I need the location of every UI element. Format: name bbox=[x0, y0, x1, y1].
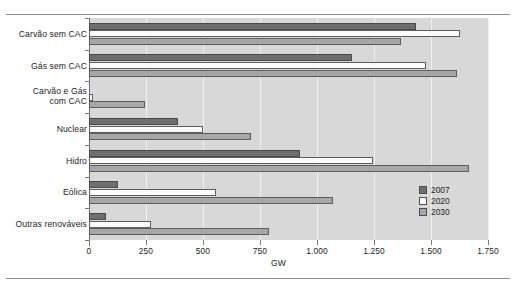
x-tick-label-1000: 1.000 bbox=[292, 246, 342, 256]
bar-0-2030 bbox=[89, 38, 401, 45]
y-tick-3 bbox=[85, 113, 90, 114]
bar-3-2020 bbox=[89, 126, 203, 133]
bar-1-2030 bbox=[89, 70, 457, 77]
gridline-1750 bbox=[488, 18, 489, 240]
legend-swatch-2030 bbox=[419, 208, 427, 216]
legend: 2007 2020 2030 bbox=[419, 185, 450, 218]
bar-5-2030 bbox=[89, 197, 333, 204]
x-tick-1500 bbox=[431, 240, 432, 245]
legend-swatch-2020 bbox=[419, 197, 427, 205]
legend-item-2030[interactable]: 2030 bbox=[419, 207, 450, 217]
bar-1-2020 bbox=[89, 62, 426, 69]
x-tick-label-1750: 1.750 bbox=[463, 246, 513, 256]
y-tick-5 bbox=[85, 177, 90, 178]
gridline-750 bbox=[260, 18, 261, 240]
gridline-1000 bbox=[317, 18, 318, 240]
x-tick-label-750: 750 bbox=[235, 246, 285, 256]
legend-label-2020: 2020 bbox=[431, 197, 450, 206]
x-tick-750 bbox=[260, 240, 261, 245]
bar-4-2007 bbox=[89, 150, 300, 157]
y-tick-6 bbox=[85, 208, 90, 209]
legend-swatch-2007 bbox=[419, 186, 427, 194]
x-tick-1000 bbox=[317, 240, 318, 245]
bar-6-2020 bbox=[89, 221, 151, 228]
bottom-divider-rule bbox=[6, 278, 510, 279]
x-tick-1250 bbox=[374, 240, 375, 245]
bar-3-2007 bbox=[89, 118, 178, 125]
x-tick-label-500: 500 bbox=[178, 246, 228, 256]
y-tick-1 bbox=[85, 50, 90, 51]
chart-figure: Carvão sem CACGás sem CACCarvão e Gáscom… bbox=[0, 0, 516, 288]
x-tick-label-1250: 1.250 bbox=[349, 246, 399, 256]
x-tick-250 bbox=[146, 240, 147, 245]
category-label-1: Gás sem CAC bbox=[31, 61, 87, 71]
bar-5-2020 bbox=[89, 189, 216, 196]
x-tick-0 bbox=[89, 240, 90, 245]
gridline-500 bbox=[203, 18, 204, 240]
legend-label-2007: 2007 bbox=[431, 186, 450, 195]
bar-3-2030 bbox=[89, 133, 251, 140]
bar-1-2007 bbox=[89, 54, 352, 61]
bar-0-2020 bbox=[89, 30, 460, 37]
y-tick-2 bbox=[85, 81, 90, 82]
bar-4-2030 bbox=[89, 165, 469, 172]
category-label-5: Eólica bbox=[63, 187, 87, 197]
y-tick-0 bbox=[85, 18, 90, 19]
bar-0-2007 bbox=[89, 23, 416, 30]
legend-label-2030: 2030 bbox=[431, 208, 450, 217]
x-tick-500 bbox=[203, 240, 204, 245]
category-label-6: Outras renováveis bbox=[16, 219, 87, 229]
x-tick-label-250: 250 bbox=[121, 246, 171, 256]
bar-5-2007 bbox=[89, 181, 118, 188]
bar-2-2020 bbox=[89, 94, 93, 101]
x-axis-title: GW bbox=[271, 258, 286, 268]
bar-4-2020 bbox=[89, 157, 373, 164]
x-tick-label-0: 0 bbox=[64, 246, 114, 256]
bar-6-2007 bbox=[89, 213, 106, 220]
category-label-3: Nuclear bbox=[57, 124, 87, 134]
bar-2-2030 bbox=[89, 101, 145, 108]
legend-item-2020[interactable]: 2020 bbox=[419, 196, 450, 206]
category-label-2: Carvão e Gáscom CAC bbox=[33, 86, 87, 106]
gridline-1250 bbox=[374, 18, 375, 240]
top-divider-rule bbox=[6, 14, 510, 15]
x-tick-label-1500: 1.500 bbox=[406, 246, 456, 256]
category-label-0: Carvão sem CAC bbox=[19, 29, 87, 39]
category-label-4: Hidro bbox=[66, 156, 87, 166]
legend-item-2007[interactable]: 2007 bbox=[419, 185, 450, 195]
x-tick-1750 bbox=[488, 240, 489, 245]
bar-6-2030 bbox=[89, 228, 269, 235]
y-tick-4 bbox=[85, 145, 90, 146]
